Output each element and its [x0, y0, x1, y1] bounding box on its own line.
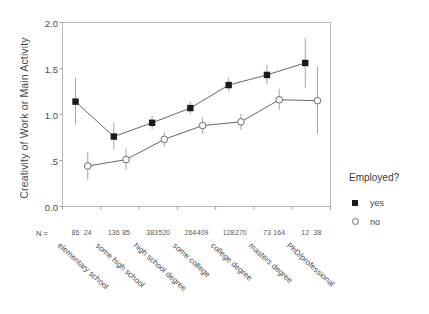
n-value: 86 [72, 229, 80, 236]
data-point-yes [149, 120, 155, 126]
data-point-yes [302, 60, 308, 66]
n-value: 38 [314, 229, 322, 236]
n-value: 136 [108, 229, 120, 236]
series-line-yes [76, 63, 306, 137]
y-tick-label: 2.0 [45, 17, 58, 28]
series-points-yes [72, 60, 308, 140]
plot-frame [63, 23, 331, 207]
y-axis-tick-labels: 0.0.51.01.52.0 [22, 0, 58, 314]
legend-title: Employed? [349, 172, 399, 183]
data-point-yes [264, 72, 270, 78]
data-point-no [314, 97, 321, 104]
n-value: 128 [223, 229, 235, 236]
chart-canvas [0, 0, 429, 314]
data-point-no [276, 96, 283, 103]
n-value: 520 [158, 229, 170, 236]
data-point-yes [111, 133, 117, 139]
legend-label-no: no [370, 217, 380, 227]
n-row-prefix: N = [36, 229, 48, 238]
y-tick-label: 1.5 [45, 63, 58, 74]
data-point-yes [187, 105, 193, 111]
y-tick-label: 1.0 [45, 109, 58, 120]
n-value: 164 [273, 229, 285, 236]
y-tick-label: .5 [50, 155, 58, 166]
n-value: 85 [122, 229, 130, 236]
n-value: 73 [263, 229, 271, 236]
n-value: 270 [235, 229, 247, 236]
chart-figure: Creativity of Work or Main Activity 0.0.… [0, 0, 429, 314]
y-tick-label: 0.0 [45, 201, 58, 212]
n-value: 409 [197, 229, 209, 236]
data-point-no [84, 163, 91, 170]
data-point-yes [225, 82, 231, 88]
n-value: 264 [185, 229, 197, 236]
data-point-no [123, 156, 130, 163]
data-point-no [238, 119, 245, 126]
n-value: 24 [84, 229, 92, 236]
data-point-no [161, 136, 168, 143]
legend-label-yes: yes [370, 198, 384, 208]
data-point-no [199, 122, 206, 129]
data-point-yes [72, 98, 78, 104]
n-value: 383 [146, 229, 158, 236]
filled-square-icon [352, 200, 358, 206]
n-value: 12 [301, 229, 309, 236]
open-circle-icon [352, 218, 359, 225]
